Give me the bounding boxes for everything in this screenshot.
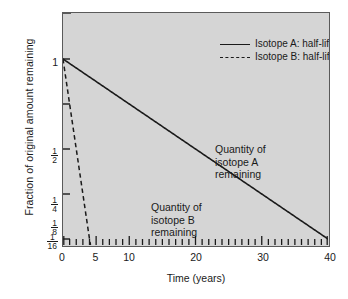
- x-axis-title: Time (years): [62, 272, 330, 284]
- x-tick-label-30: 30: [250, 251, 276, 263]
- legend-line-dashed-icon: [220, 52, 250, 62]
- legend-label: Isotope B: half-life 1 year: [255, 50, 329, 63]
- fraction-denominator: 4: [51, 205, 58, 214]
- fraction-denominator: 16: [47, 242, 58, 251]
- x-tick-label-10: 10: [116, 251, 142, 263]
- legend-label: Isotope A: half-life 10 years: [255, 37, 329, 50]
- y-tick-label-1: 1: [52, 57, 58, 68]
- plot-inner: Quantity of isotope A remaining Quantity…: [63, 13, 329, 246]
- annotation-line: remaining: [151, 226, 202, 239]
- x-tick-label-0: 0: [49, 251, 75, 263]
- annotation-isotope-a: Quantity of isotope A remaining: [215, 143, 266, 181]
- annotation-isotope-b: Quantity of isotope B remaining: [151, 201, 202, 239]
- legend-entry-isotope-a: Isotope A: half-life 10 years: [220, 37, 329, 50]
- x-tick-label-40: 40: [317, 251, 343, 263]
- chart-figure: Fraction of original amount remaining 1 …: [0, 0, 348, 299]
- legend-entry-isotope-b: Isotope B: half-life 1 year: [220, 50, 329, 63]
- annotation-line: Quantity of: [215, 143, 266, 156]
- fraction-denominator: 2: [51, 156, 58, 165]
- x-tick-label-5: 5: [83, 251, 109, 263]
- plot-area: Quantity of isotope A remaining Quantity…: [62, 12, 330, 247]
- legend-line-solid-icon: [220, 39, 250, 49]
- annotation-line: remaining: [215, 168, 266, 181]
- y-tick-label-one-sixteenth: 1 16: [47, 233, 58, 251]
- chart-legend: Isotope A: half-life 10 years Isotope B:…: [220, 37, 329, 63]
- y-tick-label-one-quarter: 1 4: [51, 196, 58, 214]
- curve-isotope-b: [63, 59, 91, 245]
- y-tick-label-one-half: 1 2: [51, 147, 58, 165]
- annotation-line: isotope A: [215, 156, 266, 169]
- annotation-line: Quantity of: [151, 201, 202, 214]
- x-tick-label-20: 20: [183, 251, 209, 263]
- annotation-line: isotope B: [151, 214, 202, 227]
